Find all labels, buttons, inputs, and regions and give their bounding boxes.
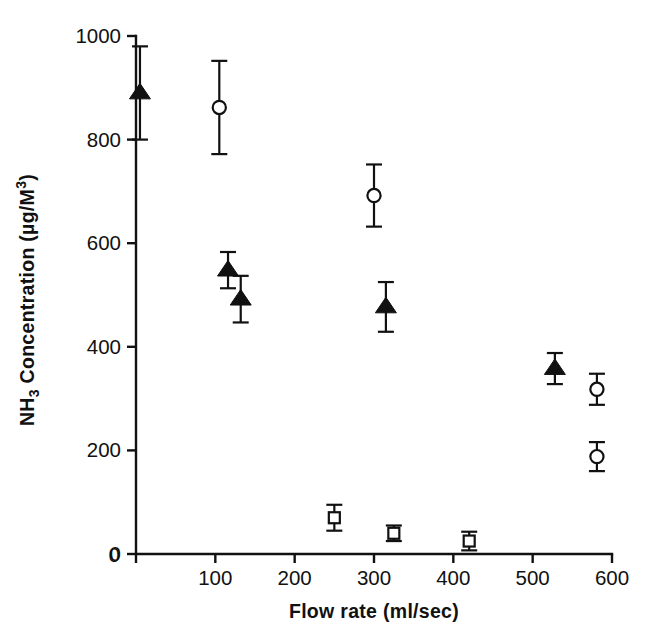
marker-open-square bbox=[388, 528, 399, 539]
data-points-layer bbox=[129, 46, 604, 550]
data-point bbox=[230, 276, 251, 323]
y-tick-label: 800 bbox=[87, 128, 121, 151]
marker-open-square bbox=[464, 536, 475, 547]
x-axis-tick-labels: 0100200300400500600 bbox=[109, 543, 630, 589]
y-tick-label: 200 bbox=[87, 438, 121, 461]
marker-open-circle bbox=[213, 101, 226, 114]
data-point bbox=[375, 282, 396, 332]
marker-open-circle bbox=[590, 383, 603, 396]
series-open-circle bbox=[211, 61, 605, 471]
data-point bbox=[461, 532, 477, 551]
y-axis-tick-labels: 02004006008001000 bbox=[75, 24, 121, 565]
y-tick-label: 600 bbox=[87, 231, 121, 254]
x-tick-label-zero: 0 bbox=[109, 543, 120, 566]
axis-lines bbox=[136, 36, 612, 554]
y-tick-label: 1000 bbox=[75, 24, 121, 47]
series-filled-triangle bbox=[129, 46, 565, 384]
marker-filled-triangle bbox=[375, 297, 396, 313]
data-point bbox=[386, 526, 402, 542]
marker-open-square bbox=[329, 512, 340, 523]
y-axis-title-middle: Concentration (µg/M bbox=[16, 189, 38, 389]
data-point bbox=[589, 374, 605, 405]
marker-open-circle bbox=[590, 450, 603, 463]
x-tick-label: 200 bbox=[278, 566, 312, 589]
data-point bbox=[218, 252, 239, 288]
x-tick-label: 600 bbox=[595, 566, 629, 589]
marker-open-circle bbox=[367, 189, 380, 202]
marker-filled-triangle bbox=[230, 290, 251, 306]
y-tick-label: 400 bbox=[87, 335, 121, 358]
marker-filled-triangle bbox=[218, 261, 239, 277]
marker-filled-triangle bbox=[129, 83, 150, 99]
scatter-plot: 02004006008001000 0100200300400500600 Fl… bbox=[0, 0, 660, 633]
data-point bbox=[544, 353, 565, 384]
data-point bbox=[326, 505, 342, 531]
data-point bbox=[211, 61, 227, 154]
y-axis-title-subscript: 3 bbox=[26, 389, 42, 397]
y-axis-title-suffix: ) bbox=[16, 174, 38, 181]
axes bbox=[136, 36, 612, 554]
y-axis-title: NH3 Concentration (µg/M3) bbox=[13, 174, 42, 426]
tick-marks bbox=[127, 36, 612, 563]
data-point bbox=[589, 442, 605, 471]
x-tick-label: 400 bbox=[436, 566, 470, 589]
series-open-square bbox=[326, 505, 477, 551]
figure-canvas: 02004006008001000 0100200300400500600 Fl… bbox=[0, 0, 660, 633]
data-point bbox=[366, 164, 382, 226]
x-tick-label: 500 bbox=[516, 566, 550, 589]
y-axis-title-prefix: NH bbox=[16, 397, 38, 426]
marker-filled-triangle bbox=[544, 359, 565, 375]
data-point bbox=[129, 46, 150, 139]
x-tick-label: 100 bbox=[198, 566, 232, 589]
y-axis-title-superscript: 3 bbox=[13, 181, 29, 189]
x-axis-title: Flow rate (ml/sec) bbox=[289, 600, 459, 622]
x-tick-label: 300 bbox=[357, 566, 391, 589]
